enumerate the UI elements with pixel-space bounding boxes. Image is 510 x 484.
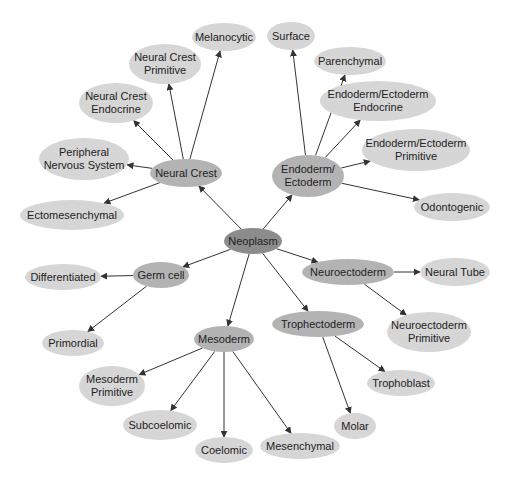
node-label: Coelomic — [201, 444, 247, 457]
node-label: Neural CrestEndocrine — [85, 90, 147, 116]
node-label: Neuroectoderm — [310, 266, 386, 279]
node-surface: Surface — [267, 22, 315, 50]
node-neuroectoderm: Neuroectoderm — [302, 259, 394, 285]
node-subcoelomic: Subcoelomic — [123, 410, 197, 440]
node-differentiated: Differentiated — [25, 264, 101, 290]
node-label: Differentiated — [30, 271, 95, 284]
node-neural-tube: Neural Tube — [420, 258, 490, 286]
node-mesenchymal: Mesenchymal — [260, 433, 340, 459]
edge-arrow-germ_cell-to-differentiated — [101, 276, 133, 277]
edge-arrow-trophectoderm-to-molar — [323, 337, 351, 413]
edge-arrow-neoplasm-to-mesoderm — [228, 254, 249, 326]
node-label: Neural Tube — [425, 266, 485, 279]
node-germ-cell: Germ cell — [133, 262, 189, 288]
edge-arrow-neoplasm-to-endo_ecto — [263, 195, 292, 229]
node-nc-primitive: Neural CrestPrimitive — [129, 44, 201, 84]
node-label: Germ cell — [137, 269, 184, 282]
edge-arrow-neural_crest-to-nc_primitive — [169, 84, 183, 159]
node-label: NeuroectodermPrimitive — [391, 319, 467, 345]
node-label: Neural Crest — [155, 167, 217, 180]
node-label: Endoderm/Ectoderm — [281, 163, 335, 189]
edge-arrow-endo_ecto-to-surface — [293, 50, 306, 155]
node-label: Subcoelomic — [129, 419, 192, 432]
node-label: Trophectoderm — [281, 318, 355, 331]
node-label: Mesoderm — [198, 333, 250, 346]
edge-arrow-neoplasm-to-germ_cell — [183, 249, 231, 267]
node-ee-endocrine: Endoderm/EctodermEndocrine — [320, 81, 436, 121]
edge-arrow-mesoderm-to-mesenchymal — [233, 351, 291, 433]
node-label: Trophoblast — [372, 377, 430, 390]
node-parenchymal: Parenchymal — [314, 47, 386, 75]
edge-arrow-neural_crest-to-pns — [127, 165, 152, 168]
node-melanocytic: Melanocytic — [192, 23, 256, 51]
node-label: Neoplasm — [228, 235, 278, 248]
node-mesoderm-primitive: MesodermPrimitive — [79, 366, 145, 406]
node-primordial: Primordial — [42, 330, 104, 356]
node-mesoderm: Mesoderm — [194, 326, 254, 352]
node-neural-crest: Neural Crest — [150, 159, 222, 187]
node-label: PeripheralNervous System — [44, 146, 125, 172]
edge-arrow-mesoderm-to-subcoelomic — [171, 351, 215, 410]
edge-arrow-mesoderm-to-mesoderm_primitive — [139, 348, 202, 375]
edge-arrow-endo_ecto-to-odontogenic — [342, 183, 419, 200]
edge-arrow-neural_crest-to-ectomesenchymal — [104, 183, 160, 204]
node-odontogenic: Odontogenic — [414, 193, 490, 221]
edge-arrow-neoplasm-to-neuroectoderm — [276, 249, 317, 263]
node-label: Molar — [341, 420, 369, 433]
edge-arrow-germ_cell-to-primordial — [88, 286, 147, 331]
node-label: Ectomesenchymal — [27, 209, 117, 222]
edge-arrow-neoplasm-to-neural_crest — [199, 186, 241, 229]
node-neoplasm: Neoplasm — [224, 228, 282, 254]
node-label: MesodermPrimitive — [86, 373, 138, 399]
node-trophoblast: Trophoblast — [367, 370, 435, 396]
neoplasm-classification-diagram: NeoplasmNeural CrestEndoderm/EctodermGer… — [0, 0, 510, 484]
edge-arrow-endo_ecto-to-ee_endocrine — [325, 120, 360, 158]
node-label: Odontogenic — [421, 201, 483, 214]
node-endo-ecto: Endoderm/Ectoderm — [272, 155, 344, 197]
node-label: Parenchymal — [318, 55, 382, 68]
node-ectomesenchymal: Ectomesenchymal — [20, 200, 124, 230]
edge-arrow-neuroectoderm-to-ne_primitive — [364, 284, 406, 315]
node-ee-primitive: Endoderm/EctodermPrimitive — [362, 129, 470, 171]
node-label: Surface — [272, 30, 310, 43]
node-label: Neural CrestPrimitive — [134, 51, 196, 77]
node-label: Melanocytic — [195, 31, 253, 44]
edge-arrow-neural_crest-to-nc_endocrine — [134, 121, 173, 160]
node-label: Endoderm/EctodermEndocrine — [328, 88, 429, 114]
node-ne-primitive: NeuroectodermPrimitive — [387, 312, 471, 352]
node-label: Primordial — [48, 337, 98, 350]
node-coelomic: Coelomic — [195, 437, 253, 463]
node-trophectoderm: Trophectoderm — [272, 311, 364, 337]
node-pns: PeripheralNervous System — [39, 138, 129, 180]
edge-arrow-trophectoderm-to-trophoblast — [335, 336, 385, 371]
node-label: Endoderm/EctodermPrimitive — [366, 137, 467, 163]
node-nc-endocrine: Neural CrestEndocrine — [79, 83, 153, 123]
node-label: Mesenchymal — [266, 440, 334, 453]
node-molar: Molar — [334, 413, 376, 439]
edge-arrow-neoplasm-to-trophectoderm — [263, 253, 308, 311]
